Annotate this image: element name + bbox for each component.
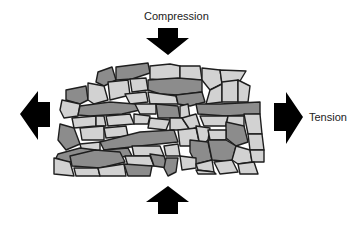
tension-arrow-left-icon — [20, 91, 50, 140]
compression-arrow-bottom-icon — [146, 186, 189, 214]
tension-arrow-right-icon — [274, 92, 303, 144]
deformation-diagram — [0, 0, 357, 226]
stone-mass — [54, 63, 264, 176]
compression-arrow-top-icon — [146, 28, 189, 55]
